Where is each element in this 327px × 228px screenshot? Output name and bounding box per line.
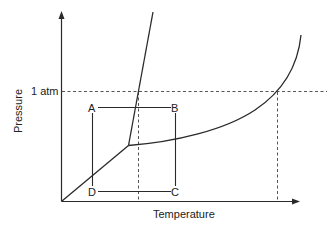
y-axis-arrow-icon [59,11,65,19]
x-axis [62,199,301,205]
y-axis-title: Pressure [12,89,24,133]
point-label-c: C [171,186,179,198]
one-atm-label: 1 atm [31,85,59,97]
phase-diagram: A B C D 1 atm Temperature Pressure [0,0,327,228]
x-axis-title: Temperature [153,208,215,220]
point-label-a: A [88,102,96,114]
x-axis-arrow-icon [292,199,300,205]
y-axis [59,11,65,202]
melting-curve [129,12,154,146]
process-path [93,108,176,192]
point-label-d: D [88,186,96,198]
vaporization-curve [129,35,302,146]
point-label-b: B [171,102,178,114]
